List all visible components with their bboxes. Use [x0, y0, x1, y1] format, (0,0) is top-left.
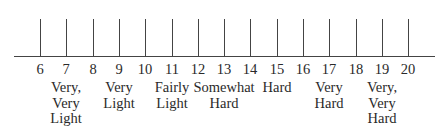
tick-mark-9 — [119, 19, 120, 56]
tick-mark-19 — [382, 19, 383, 56]
tick-label-14: 14 — [235, 61, 265, 77]
tick-mark-12 — [198, 19, 199, 56]
tick-mark-16 — [303, 19, 304, 56]
tick-mark-20 — [408, 19, 409, 56]
tick-mark-6 — [40, 19, 41, 56]
tick-label-10: 10 — [130, 61, 160, 77]
rating-scale-diagram: 67891011121314151617181920 Very, Very Li… — [0, 0, 445, 131]
tick-mark-8 — [93, 19, 94, 56]
tick-mark-7 — [66, 19, 67, 56]
tick-label-7: 7 — [51, 61, 81, 77]
tick-mark-13 — [224, 19, 225, 56]
tick-label-17: 17 — [314, 61, 344, 77]
tick-mark-14 — [250, 19, 251, 56]
tick-mark-10 — [145, 19, 146, 56]
scale-axis-line — [14, 56, 435, 57]
tick-mark-15 — [277, 19, 278, 56]
tick-mark-18 — [356, 19, 357, 56]
tick-mark-17 — [329, 19, 330, 56]
anchor-label-19: Very, Very Hard — [347, 80, 417, 127]
tick-label-20: 20 — [393, 61, 423, 77]
tick-mark-11 — [172, 19, 173, 56]
